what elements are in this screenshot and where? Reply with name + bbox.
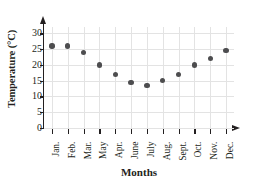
x-axis-tick-mark [163,129,164,134]
x-axis-tick-mark [210,129,211,134]
y-axis-tick-mark [40,49,45,50]
x-axis-tick-mark [147,129,148,134]
x-axis-tick-mark [115,129,116,134]
y-axis-tick-mark [40,65,45,66]
y-axis-tick-mark [40,96,45,97]
x-axis-title: Months [44,166,234,178]
y-axis-tick-mark [40,33,45,34]
x-axis-tick-labels: Jan.Feb.Mar.MayApr.JuneJulyAug.Sept.Oct.… [0,0,257,182]
x-axis-tick-mark [52,129,53,134]
y-axis-tick-mark [40,128,45,129]
x-axis-tick-mark [68,129,69,134]
x-axis-tick-mark [179,129,180,134]
x-axis-tick-mark [84,129,85,134]
x-axis-tick-mark [194,129,195,134]
x-axis-tick-mark [131,129,132,134]
x-axis-tick-mark [99,129,100,134]
scatter-plot-figure: Temperature (°C) 051015202530 Jan.Feb.Ma… [0,0,257,182]
x-axis-tick-mark [226,129,227,134]
y-axis-tick-mark [40,112,45,113]
y-axis-tick-mark [40,81,45,82]
